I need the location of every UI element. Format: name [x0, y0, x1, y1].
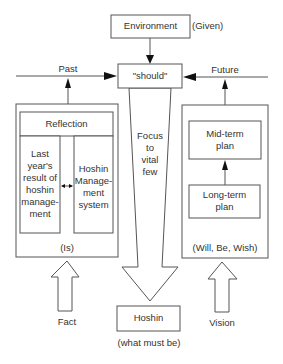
last-year-result-label: Last year's result of hoshin manage- men…	[20, 148, 60, 220]
will-be-wish-label: (Will, Be, Wish)	[182, 242, 268, 254]
future-label: Future	[202, 64, 248, 76]
reflection-label: Reflection	[20, 118, 113, 130]
hoshin-management-system-label: Hoshin Manage- ment system	[74, 163, 113, 211]
arrow-up-icon	[65, 78, 71, 88]
focus-arrow-icon	[122, 88, 178, 301]
what-must-be-note: (what must be)	[105, 337, 193, 349]
fact-arrow-icon	[51, 261, 79, 311]
hoshin-label: Hoshin	[117, 312, 180, 324]
fact-label: Fact	[45, 316, 89, 328]
is-label: (Is)	[16, 242, 118, 254]
past-label: Past	[48, 63, 88, 75]
arrow-down-icon	[146, 55, 154, 64]
long-term-plan-label: Long-term plan	[189, 189, 260, 213]
vision-label: Vision	[200, 317, 244, 329]
should-label: "should"	[118, 70, 182, 82]
vision-arrow-icon	[208, 262, 237, 312]
mid-term-plan-label: Mid-term plan	[189, 128, 261, 152]
arrow-right-icon	[104, 72, 117, 80]
arrow-left-icon	[183, 73, 196, 81]
arrow-up-icon	[222, 79, 228, 89]
given-note: (Given)	[192, 20, 236, 32]
focus-label: Focus to vital few	[130, 130, 170, 178]
environment-label: Environment	[111, 20, 190, 32]
